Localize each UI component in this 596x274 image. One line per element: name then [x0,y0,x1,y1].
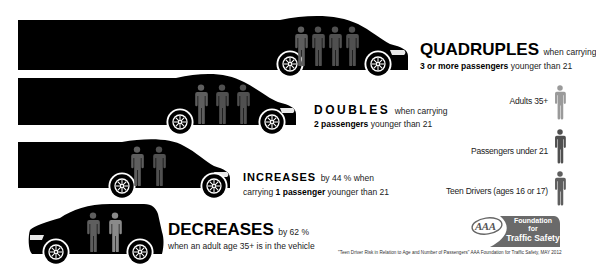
aaa-text: AAA [475,220,496,232]
row-text-line2: 3 or more passengers younger than 21 [420,61,578,71]
row-text-rest: younger than 21 [328,187,389,197]
row-text-line2: when an adult age 35+ is in the vehicle [168,241,338,251]
legend-label: Teen Drivers (ages 16 or 17) [446,186,548,196]
logo-line2: for [506,225,560,233]
row-text-line1: by 62 % [278,227,309,237]
headline-quadruples: QUADRUPLES [420,40,539,59]
car-body-icon [18,74,296,125]
row-text-line1: by 44 % when [321,173,374,183]
row-text-line1: when carrying [543,47,596,57]
logo-line1: Foundation [506,217,560,225]
row-quadruples-text: QUADRUPLES when carrying 3 or more passe… [420,40,578,71]
car-2-passengers [18,138,232,202]
headline-decreases: DECREASES [168,220,274,239]
row-increases-text: INCREASES by 44 % when carrying 1 passen… [243,167,413,197]
legend-label: Passengers under 21 [471,146,548,156]
logo-line3: Traffic Safety [506,233,560,243]
logo-foundation-text: Foundation for Traffic Safety [506,217,560,243]
source-citation: "Teen Driver Risk in Relation to Age and… [338,250,562,255]
row-text-pre: carrying [243,187,273,197]
row-text-rest: younger than 21 [371,119,432,129]
limo-car-4-passengers [18,14,410,80]
row-decreases-text: DECREASES by 62 % when an adult age 35+ … [168,220,338,251]
hatchback-car-adult-passenger [26,202,166,268]
row-text-bold: 1 passenger [276,187,326,197]
legend-item-passengers-under21: Passengers under 21 [440,124,578,164]
row-text-bold: 2 passengers [314,119,368,129]
teen-driver-person-icon [554,170,566,206]
adult-person-icon [554,84,566,120]
long-car-3-passengers [18,72,300,138]
legend: Adults 35+ Passengers under 21 Teen Driv… [440,82,578,212]
headline-doubles: DOUBLES [314,103,390,117]
aaa-foundation-logo: AAA Foundation for Traffic Safety [470,214,560,248]
row-doubles-text: DOUBLES when carrying 2 passengers young… [314,100,454,129]
row-text-rest: younger than 21 [511,61,572,71]
headline-increases: INCREASES [243,171,316,183]
row-text-line2: 2 passengers younger than 21 [314,119,454,129]
legend-label: Adults 35+ [510,96,548,106]
legend-item-adults: Adults 35+ [440,82,578,122]
legend-item-teen-drivers: Teen Drivers (ages 16 or 17) [440,168,578,208]
row-text-line2: carrying 1 passenger younger than 21 [243,187,413,197]
passenger-person-icon [554,128,566,164]
row-text-bold: 3 or more passengers [420,61,508,71]
